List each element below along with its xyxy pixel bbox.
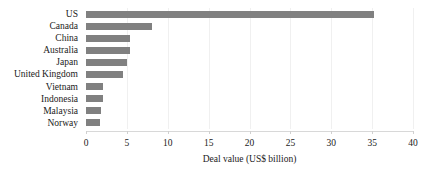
x-axis-tick-label: 35 bbox=[367, 136, 377, 150]
x-axis-tick bbox=[168, 131, 169, 134]
category-label-norway: Norway bbox=[0, 117, 82, 129]
x-axis-tick-labels: 0510152025303540 bbox=[86, 136, 413, 150]
x-axis-tick bbox=[250, 131, 251, 134]
bar-australia bbox=[86, 47, 130, 54]
bar-us bbox=[86, 11, 374, 18]
x-axis-tick-label: 25 bbox=[286, 136, 296, 150]
x-axis-title: Deal value (US$ billion) bbox=[86, 153, 413, 166]
bar-united-kingdom bbox=[86, 71, 123, 78]
category-label-us: US bbox=[0, 8, 82, 20]
category-label-malaysia: Malaysia bbox=[0, 105, 82, 117]
x-axis-tick bbox=[413, 131, 414, 134]
bar-china bbox=[86, 35, 130, 42]
category-label-china: China bbox=[0, 32, 82, 44]
category-label-australia: Australia bbox=[0, 44, 82, 56]
bar-japan bbox=[86, 59, 127, 66]
bar-row bbox=[86, 8, 413, 20]
bar-row bbox=[86, 81, 413, 93]
x-axis-tick-label: 0 bbox=[84, 136, 89, 150]
plot-area bbox=[86, 8, 413, 129]
bar-malaysia bbox=[86, 107, 101, 114]
category-label-japan: Japan bbox=[0, 56, 82, 68]
bar-norway bbox=[86, 119, 100, 126]
x-axis-tick bbox=[331, 131, 332, 134]
category-label-united-kingdom: United Kingdom bbox=[0, 68, 82, 80]
bar-row bbox=[86, 44, 413, 56]
bar-indonesia bbox=[86, 95, 103, 102]
x-axis-tick-label: 5 bbox=[125, 136, 130, 150]
x-axis-ticks bbox=[86, 131, 413, 134]
bar-canada bbox=[86, 23, 152, 30]
bar-row bbox=[86, 105, 413, 117]
bar-row bbox=[86, 117, 413, 129]
x-axis-tick-label: 10 bbox=[163, 136, 173, 150]
x-axis-tick bbox=[372, 131, 373, 134]
bar-row bbox=[86, 32, 413, 44]
x-axis-tick-label: 15 bbox=[204, 136, 214, 150]
category-axis: US Canada China Australia Japan United K… bbox=[0, 8, 82, 129]
gridline bbox=[413, 8, 414, 129]
x-axis-tick bbox=[209, 131, 210, 134]
x-axis-tick bbox=[290, 131, 291, 134]
bar-row bbox=[86, 56, 413, 68]
x-axis-tick-label: 40 bbox=[408, 136, 418, 150]
category-label-indonesia: Indonesia bbox=[0, 93, 82, 105]
x-axis-tick bbox=[86, 131, 87, 134]
bar-row bbox=[86, 68, 413, 80]
x-axis-tick-label: 30 bbox=[327, 136, 337, 150]
bar-chart: US Canada China Australia Japan United K… bbox=[0, 0, 431, 179]
bar-vietnam bbox=[86, 83, 103, 90]
category-label-vietnam: Vietnam bbox=[0, 81, 82, 93]
category-label-canada: Canada bbox=[0, 20, 82, 32]
x-axis-tick-label: 20 bbox=[245, 136, 255, 150]
bar-row bbox=[86, 93, 413, 105]
bar-row bbox=[86, 20, 413, 32]
bars-layer bbox=[86, 8, 413, 129]
x-axis-tick bbox=[127, 131, 128, 134]
